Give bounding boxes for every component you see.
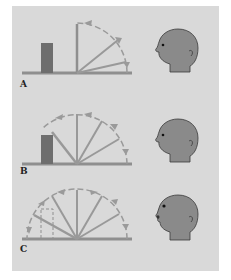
panel-label: A xyxy=(20,79,27,89)
infant-head-icon xyxy=(156,119,198,162)
rotation-arc xyxy=(77,23,127,73)
arrow-head-icon xyxy=(122,224,129,230)
block xyxy=(41,43,53,73)
panel-label: C xyxy=(20,244,27,254)
panel-a: A xyxy=(12,6,219,94)
infant-head-surprised-icon xyxy=(156,195,198,240)
arrow-head-icon xyxy=(123,62,130,68)
open-mouth xyxy=(157,215,160,219)
arrow-head-icon xyxy=(26,227,32,234)
arrow-head-icon xyxy=(38,200,45,206)
panel-b: B xyxy=(12,94,219,182)
infant-head-icon xyxy=(156,29,198,72)
block xyxy=(41,135,53,164)
panel-b-drawing xyxy=(12,94,219,182)
arrow-head-icon xyxy=(90,190,98,195)
arrow-head-icon xyxy=(57,189,65,195)
arrow-head-icon xyxy=(122,149,129,155)
panel-label: B xyxy=(20,166,28,176)
arrow-head-icon xyxy=(84,112,92,118)
screen-position-tilted-back xyxy=(52,132,77,164)
rotation-arc xyxy=(42,115,127,164)
arrow-head-icon xyxy=(84,20,92,26)
panel-a-drawing xyxy=(12,6,219,94)
panel-c-drawing xyxy=(12,182,219,271)
panel-c: C xyxy=(12,182,219,271)
